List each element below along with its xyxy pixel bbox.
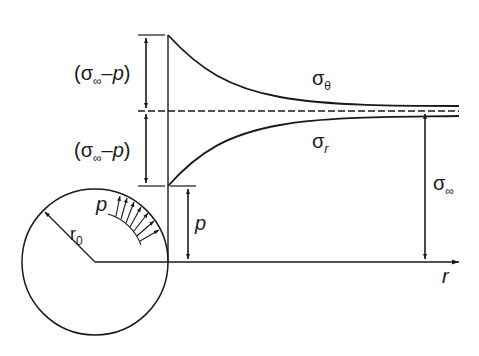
p-dim-label: p: [194, 212, 206, 234]
upper-bracket-label: (σ∞–p): [74, 62, 131, 88]
r-axis-label: r: [442, 265, 450, 287]
sigma-theta-label: σθ: [312, 67, 331, 93]
sigma-inf-label: σ∞: [433, 172, 454, 198]
lower-bracket-label: (σ∞–p): [74, 139, 131, 165]
pressure-arrows: [108, 196, 159, 245]
stress-diagram: (σ∞–p) (σ∞–p) σθ σr σ∞ p p r0 r: [0, 0, 479, 356]
sigma-r-label: σr: [312, 130, 329, 156]
pressure-label: p: [95, 193, 107, 215]
r0-label: r0: [70, 224, 83, 248]
